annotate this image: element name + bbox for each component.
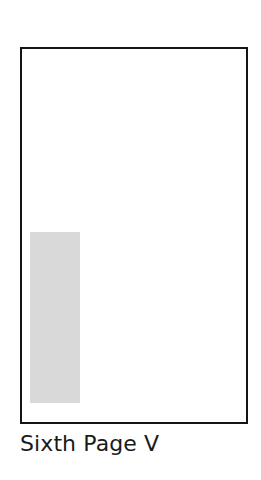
figure-root: Sixth Page V <box>0 0 261 480</box>
figure-caption: Sixth Page V <box>20 429 248 461</box>
shaded-content-block <box>30 232 80 403</box>
page-outline <box>20 47 248 424</box>
